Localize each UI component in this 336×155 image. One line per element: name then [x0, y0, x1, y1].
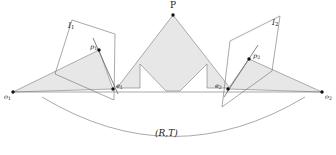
label-image-plane-right: I2	[272, 19, 278, 28]
left-view-triangle	[13, 50, 113, 92]
label-epipole-left: e1	[116, 83, 123, 91]
label-camera-center-left-sub: 1	[8, 96, 11, 101]
label-scene-point-P: P	[170, 1, 176, 10]
point-p1-dot	[97, 48, 100, 51]
label-image-point-left: p1	[90, 44, 97, 52]
label-image-plane-left-sub: 1	[71, 24, 74, 30]
point-e2-dot	[226, 87, 229, 90]
point-o1-dot	[11, 90, 14, 93]
epipolar-geometry-figure: P I1 I2 p1 p2 e1 e2 o1 o2 (R,T)	[0, 0, 336, 155]
label-camera-center-right-sub: 2	[329, 96, 332, 101]
label-epipole-right-sub: 2	[219, 85, 222, 90]
label-epipole-left-sub: 1	[120, 85, 123, 90]
point-e1-dot	[111, 87, 114, 90]
label-image-plane-left: I1	[68, 22, 74, 31]
label-camera-center-right: o2	[325, 94, 332, 102]
point-p2-dot	[247, 57, 250, 60]
point-o2-dot	[320, 90, 323, 93]
point-P-dot	[171, 13, 174, 16]
label-epipole-right: e2	[215, 83, 222, 91]
label-transform-RT: (R,T)	[155, 129, 178, 138]
epipolar-plane-shape	[117, 15, 230, 91]
label-camera-center-left: o1	[4, 94, 11, 102]
label-image-plane-right-sub: 2	[275, 21, 278, 27]
label-image-point-right: p2	[253, 53, 260, 61]
label-image-point-left-sub: 1	[94, 46, 97, 51]
right-view-triangle	[228, 59, 322, 92]
label-image-point-right-sub: 2	[257, 55, 260, 60]
